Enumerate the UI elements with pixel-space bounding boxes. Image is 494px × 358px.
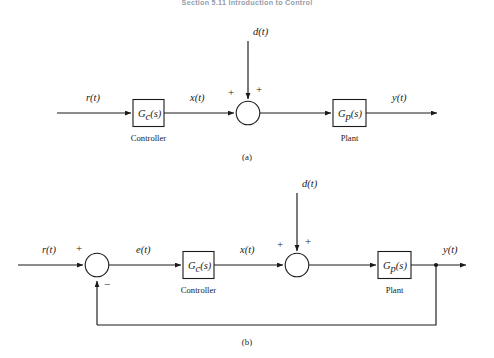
error-summer-sign-plus: + — [76, 242, 82, 254]
disturbance-summing-junction — [285, 253, 309, 277]
error-summer-sign-minus: − — [104, 278, 110, 290]
signal-label-reference: r(t) — [86, 92, 101, 104]
signal-label-controller-output-b: x(t) — [239, 244, 255, 256]
signal-label-controller-output: x(t) — [189, 92, 205, 104]
signal-label-disturbance: d(t) — [253, 26, 269, 38]
signal-label-output-b: y(t) — [442, 244, 458, 256]
summer-b-sign-disturbance-plus: + — [305, 235, 311, 247]
figure-caption-a: (a) — [242, 152, 252, 162]
figure-open-loop: r(t) Gc(s) Controller x(t) + d(t) + Gp(s… — [57, 26, 437, 162]
block-controller-b-transfer-arg: (s) — [200, 260, 212, 272]
summer-b-sign-input-plus: + — [277, 238, 283, 250]
block-plant-b-label: Plant — [386, 285, 404, 295]
signal-label-disturbance-b: d(t) — [302, 178, 318, 190]
signal-label-output: y(t) — [391, 92, 407, 104]
summer-sign-input-plus: + — [228, 86, 234, 98]
block-controller-label: Controller — [131, 133, 166, 143]
block-diagram-canvas: r(t) Gc(s) Controller x(t) + d(t) + Gp(s… — [0, 0, 494, 358]
signal-label-reference-b: r(t) — [42, 244, 57, 256]
error-summing-junction — [85, 253, 109, 277]
block-plant-label: Plant — [341, 133, 359, 143]
summing-junction — [236, 101, 260, 125]
figure-closed-loop: r(t) + − e(t) Gc(s) Controller x(t) + d(… — [18, 178, 466, 347]
summer-sign-disturbance-plus: + — [256, 83, 262, 95]
figure-page: Section 5.11 Introduction to Control r(t… — [0, 0, 494, 358]
block-plant-transfer-arg: (s) — [351, 108, 363, 120]
figure-caption-b: (b) — [242, 337, 252, 347]
block-controller-b-label: Controller — [181, 285, 216, 295]
block-controller-transfer-arg: (s) — [150, 108, 162, 120]
block-plant-b-transfer-arg: (s) — [396, 260, 408, 272]
signal-label-error: e(t) — [136, 244, 151, 256]
